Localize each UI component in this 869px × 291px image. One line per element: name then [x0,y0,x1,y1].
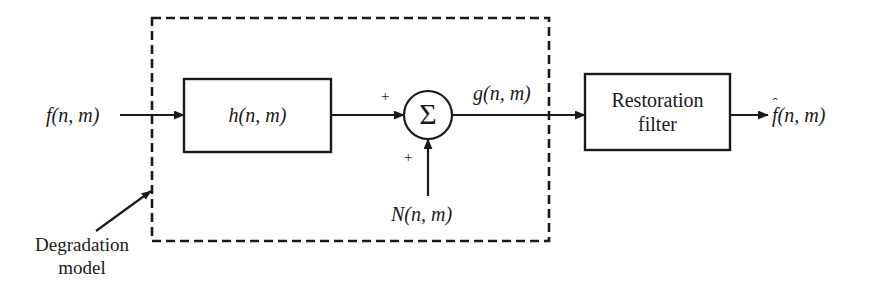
degradation-restoration-diagram: f(n, m) h(n, m) Σ + + N(n, m) g(n, m) Re… [0,0,869,291]
plus-sign-top: + [381,88,389,105]
noise-signal-label: N(n, m) [391,203,452,225]
summation-sigma-label: Σ [404,97,452,131]
restoration-filter-label-line2: filter [611,112,703,136]
input-signal-label: f(n, m) [46,104,99,126]
degradation-model-annotation-line1: Degradation [12,233,152,256]
degradation-model-annotation-line2: model [12,256,152,279]
degradation-model-annotation: Degradation model [12,233,152,279]
degradation-block-label: h(n, m) [184,79,331,152]
output-signal-label: fˆ(n, m) [772,104,825,126]
degraded-signal-label: g(n, m) [473,82,531,104]
plus-sign-bottom: + [404,149,412,166]
restoration-filter-label: Restoration filter [585,74,730,150]
output-signal-args: (n, m) [778,104,826,126]
annotation-pointer-arrow [96,191,151,231]
restoration-filter-label-line1: Restoration [611,88,703,112]
output-signal-hat: ˆ [773,95,778,112]
